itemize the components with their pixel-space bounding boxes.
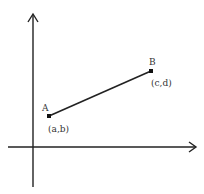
point-b-coord-label: (c,d) (151, 78, 172, 88)
x-axis (8, 142, 196, 152)
coordinate-plane: A (a,b) B (c,d) (0, 0, 204, 194)
segment-ab (49, 71, 151, 116)
point-b-marker (149, 69, 153, 73)
point-a-label: A (41, 103, 49, 113)
y-axis (28, 14, 38, 187)
point-a-marker (47, 114, 51, 118)
point-b-label: B (149, 57, 156, 67)
point-a-coord-label: (a,b) (48, 124, 69, 134)
